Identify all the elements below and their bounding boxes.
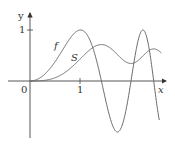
x-axis-label: x [158,84,164,95]
x-tick-1-label: 1 [77,84,83,95]
origin-label: 0 [21,84,27,95]
y-tick-1-label: 1 [19,24,25,35]
fresnel-chart: y x 0 1 1 f S [0,0,175,148]
curve-s [30,45,161,81]
y-axis-label: y [17,10,24,21]
f-curve-label: f [53,40,60,51]
s-curve-label: S [71,52,78,63]
